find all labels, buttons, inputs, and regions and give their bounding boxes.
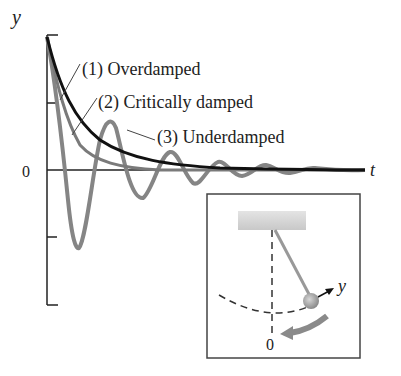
pendulum-inset: y 0 bbox=[207, 194, 360, 358]
overdamped-label: (1) Overdamped bbox=[82, 59, 200, 80]
critically-damped-label: (2) Critically damped bbox=[98, 92, 253, 113]
pendulum-bob bbox=[303, 293, 319, 309]
zero-label: 0 bbox=[22, 163, 30, 180]
origin-label: 0 bbox=[266, 336, 274, 353]
t-axis-label: t bbox=[370, 160, 376, 180]
underdamped-label: (3) Underdamped bbox=[157, 127, 284, 148]
ceiling-support bbox=[238, 211, 306, 230]
damping-diagram: y 0 t (1) Overdamped (2) Critically damp… bbox=[0, 0, 401, 376]
displacement-label: y bbox=[336, 276, 346, 296]
y-axis-label: y bbox=[10, 6, 21, 29]
